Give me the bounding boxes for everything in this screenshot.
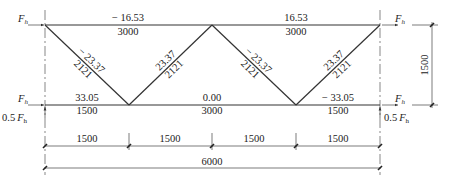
bottom-middle-length: 3000 xyxy=(202,105,223,116)
load-label-top-right: Fh xyxy=(394,13,405,26)
truss-diagram: Fh Fh 0.5Fh Fh Fh 0.5Fh − 16.53 3000 16.… xyxy=(0,0,452,182)
bottom-left-force: 33.05 xyxy=(75,92,99,103)
load-label-bottom-right: Fh xyxy=(394,93,405,106)
top-left-length: 3000 xyxy=(118,26,139,37)
bottom-right-force: − 33.05 xyxy=(322,92,354,103)
bottom-right-length: 1500 xyxy=(328,105,349,116)
reaction-label-right: 0.5Fh xyxy=(384,112,410,125)
dim-segment-3: 1500 xyxy=(244,133,265,144)
top-right-force: 16.53 xyxy=(284,12,308,23)
dim-segment-4: 1500 xyxy=(328,133,349,144)
load-label-top-left: Fh xyxy=(17,13,28,26)
horizontal-dimensions: 1500 1500 1500 1500 6000 xyxy=(43,133,382,170)
dim-segment-2: 1500 xyxy=(160,133,181,144)
dim-height: 1500 xyxy=(419,55,430,76)
bottom-middle-force: 0.00 xyxy=(203,92,221,103)
top-right-length: 3000 xyxy=(286,26,307,37)
dim-total: 6000 xyxy=(202,156,223,167)
top-left-force: − 16.53 xyxy=(112,12,144,23)
vertical-dimension: 1500 xyxy=(412,22,438,108)
load-label-bottom-left: Fh xyxy=(17,93,28,106)
bottom-left-length: 1500 xyxy=(77,105,98,116)
dim-segment-1: 1500 xyxy=(77,133,98,144)
reaction-label-left: 0.5Fh xyxy=(2,112,28,125)
